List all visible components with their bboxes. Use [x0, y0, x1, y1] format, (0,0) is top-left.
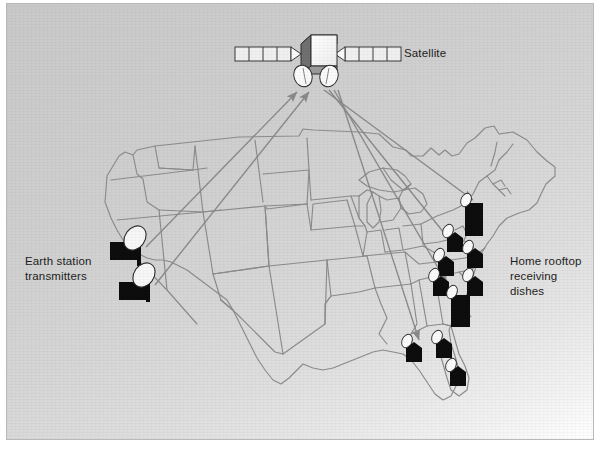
state-border-co-nm	[269, 260, 327, 266]
uplink-beam-2	[155, 92, 309, 285]
uplink-beam-1	[146, 92, 297, 247]
state-border-nv-ut	[203, 212, 221, 300]
earth-station-2	[119, 259, 160, 302]
state-border-mt-nd	[255, 140, 263, 202]
state-border-ia-mo	[347, 200, 363, 226]
satellite-label: Satellite	[404, 46, 446, 61]
state-border-me-nh	[499, 144, 513, 160]
state-border-nd-sd	[263, 170, 309, 174]
home-dish-9	[430, 329, 452, 358]
state-border-ks-mo	[355, 226, 363, 256]
home-dish-3	[461, 239, 483, 268]
state-border-ok-tx	[325, 288, 375, 304]
state-border-ne-ks	[307, 204, 355, 230]
figure-root: Satellite Earth station transmitters Hom…	[0, 0, 601, 470]
diagram-canvas	[7, 4, 593, 439]
state-border-pa-ny	[421, 204, 465, 224]
state-border-nm-south	[283, 260, 327, 354]
state-border-id-mt	[159, 146, 195, 170]
downlink-beam-1	[324, 90, 473, 200]
state-border-oh-pa	[403, 224, 423, 244]
state-border-tx-la	[375, 288, 387, 344]
state-border-co-ks	[265, 204, 307, 266]
state-border-ok-ar	[367, 256, 375, 288]
state-border-ne-states	[487, 176, 505, 196]
state-border-wi-il	[359, 196, 365, 226]
home-dishes-label: Home rooftop receiving dishes	[510, 254, 593, 299]
home-dish-1	[459, 192, 483, 236]
state-border-ks-ok	[327, 256, 367, 260]
state-border-wa-id	[155, 146, 193, 170]
earth-station-group	[110, 222, 160, 302]
state-border-wy-co	[213, 206, 269, 274]
great-lake-michigan	[367, 192, 381, 228]
solar-panel-right	[335, 47, 401, 61]
state-border-az-nm	[269, 266, 283, 354]
state-border-id-west	[133, 155, 159, 210]
uplink-beams	[146, 92, 309, 285]
downlink-beams	[324, 90, 473, 340]
satellite	[235, 35, 401, 89]
home-dish-2	[441, 223, 463, 252]
figure-panel: Satellite Earth station transmitters Hom…	[6, 3, 594, 440]
state-border-mt-wy	[195, 146, 265, 212]
great-lake-huron-erie	[399, 188, 427, 214]
solar-panel-left	[235, 47, 301, 61]
home-dish-7	[445, 284, 470, 327]
state-border-ms-al	[419, 280, 427, 326]
state-border-mo-il	[363, 226, 367, 256]
state-border-ar-la	[375, 284, 411, 288]
state-border-il-in	[367, 230, 385, 252]
state-border-mo-ar	[363, 252, 405, 256]
state-border-az-south	[221, 300, 283, 354]
state-border-sd-ne	[307, 170, 309, 204]
state-border-vt-nh	[491, 142, 497, 166]
state-border-ne-ia	[311, 200, 347, 230]
state-border-in-oh	[385, 228, 403, 250]
earth-station-label: Earth station transmitters	[25, 254, 92, 284]
